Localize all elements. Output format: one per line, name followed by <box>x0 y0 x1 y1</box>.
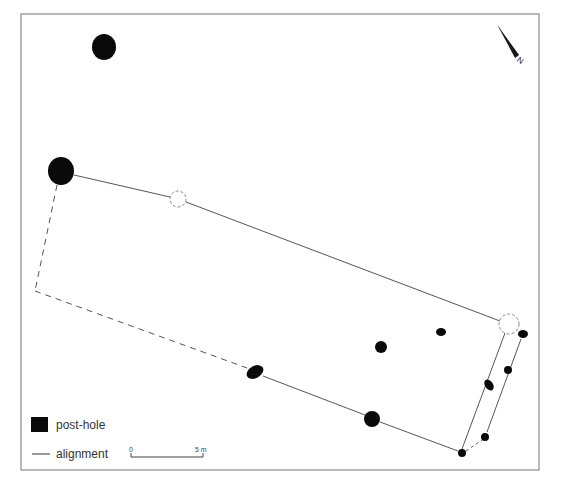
site-plan: N post-hole alignment 0 5 m <box>0 0 562 487</box>
alignments-layer <box>35 175 521 451</box>
alignment-dashed-2 <box>35 185 57 291</box>
legend: post-hole alignment <box>31 417 109 461</box>
alignment-solid-6 <box>462 333 505 449</box>
alignment-solid-5 <box>380 422 458 451</box>
alignment-solid-1 <box>186 202 500 321</box>
plan-frame <box>21 14 539 470</box>
alignment-dashed-3 <box>35 291 247 368</box>
legend-post-hole-swatch <box>31 417 48 432</box>
post-hole-ph-south-2 <box>364 411 380 427</box>
post-hole-ph-east-2 <box>504 366 512 374</box>
alignment-dotted-8 <box>466 440 482 451</box>
alignment-solid-0 <box>74 175 170 197</box>
legend-alignment-label: alignment <box>56 447 109 461</box>
alignment-solid-4 <box>263 376 365 415</box>
post-hole-ph-east-1 <box>518 330 528 338</box>
post-hole-ph-east-3 <box>481 433 489 441</box>
north-arrow: N <box>498 26 526 65</box>
scale-start-label: 0 <box>129 446 133 453</box>
post-hole-ph-south-east-corner <box>458 449 466 457</box>
legend-post-hole-label: post-hole <box>56 418 106 432</box>
projected-post-hole-ghost-north <box>170 191 186 207</box>
post-hole-ph-west-corner <box>48 157 74 185</box>
post-holes-layer <box>48 34 528 457</box>
scale-end-label: 5 m <box>195 446 207 453</box>
projected-post-hole-ghost-east <box>499 314 519 334</box>
post-hole-ph-interior-1 <box>375 341 387 353</box>
post-hole-ph-south-1 <box>244 362 266 381</box>
post-hole-ph-interior-2 <box>436 328 446 336</box>
post-hole-ph-top <box>92 34 116 60</box>
scale-bar: 0 5 m <box>129 446 207 457</box>
